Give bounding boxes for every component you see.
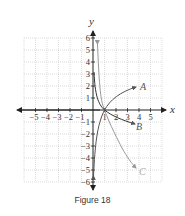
svg-text:−5: −5 xyxy=(29,112,38,122)
svg-text:−3: −3 xyxy=(81,141,90,151)
svg-text:−4: −4 xyxy=(81,153,91,163)
svg-text:6: 6 xyxy=(86,33,90,43)
x-axis-label: x xyxy=(169,103,175,115)
curve-b-label: B xyxy=(136,121,142,132)
svg-text:−2: −2 xyxy=(81,129,90,139)
svg-text:−3: −3 xyxy=(52,112,61,122)
svg-text:5: 5 xyxy=(86,45,90,55)
svg-text:−1: −1 xyxy=(81,117,90,127)
svg-text:−5: −5 xyxy=(81,165,90,175)
figure-caption: Figure 18 xyxy=(0,195,185,205)
curve-a-label: A xyxy=(139,81,147,92)
x-tick-labels: −5 −4 −3 −2 −1 1 2 3 4 5 xyxy=(29,112,152,122)
curve-c xyxy=(98,44,137,168)
svg-text:1: 1 xyxy=(86,93,90,103)
svg-text:−6: −6 xyxy=(81,177,90,187)
graph: −5 −4 −3 −2 −1 1 2 3 4 5 6 5 4 3 2 1 −1 … xyxy=(0,0,185,216)
svg-text:−4: −4 xyxy=(41,112,51,122)
y-axis-label: y xyxy=(88,15,94,27)
svg-text:−2: −2 xyxy=(64,112,73,122)
curve-c-label: C xyxy=(139,166,146,177)
svg-text:3: 3 xyxy=(86,69,90,79)
curve-a xyxy=(94,87,137,176)
svg-text:5: 5 xyxy=(148,112,152,122)
svg-text:2: 2 xyxy=(86,81,90,91)
